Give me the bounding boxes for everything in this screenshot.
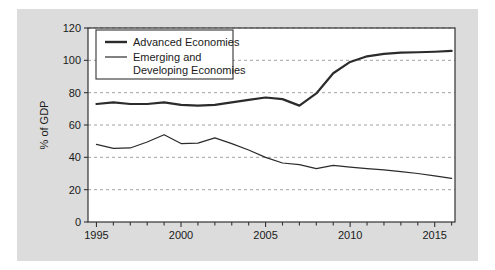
x-tick-label-1995: 1995 (84, 229, 108, 241)
chart-figure: 020406080100120 19952000200520102015 % o… (17, 9, 478, 261)
y-tick-label-60: 60 (69, 119, 81, 131)
x-tick-label-2005: 2005 (253, 229, 277, 241)
y-tick-label-40: 40 (69, 151, 81, 163)
chart-legend: Advanced Economies Emerging and Developi… (96, 30, 246, 79)
legend-label-emerging-developing-economies-line2: Developing Economies (133, 64, 246, 76)
legend-label-advanced-economies: Advanced Economies (133, 36, 240, 48)
y-tick-label-80: 80 (69, 87, 81, 99)
y-tick-label-120: 120 (63, 22, 81, 34)
y-tick-label-100: 100 (63, 54, 81, 66)
y-axis-title: % of GDP (38, 101, 50, 150)
x-tick-label-2015: 2015 (422, 229, 446, 241)
y-tick-label-20: 20 (69, 184, 81, 196)
y-tick-label-0: 0 (75, 216, 81, 228)
x-axis: 19952000200520102015 (84, 222, 451, 241)
y-axis: 020406080100120 (63, 22, 88, 228)
line-chart: 020406080100120 19952000200520102015 % o… (17, 9, 478, 261)
x-tick-label-2000: 2000 (169, 229, 193, 241)
legend-label-emerging-developing-economies-line1: Emerging and (133, 51, 202, 63)
x-tick-label-2010: 2010 (338, 229, 362, 241)
